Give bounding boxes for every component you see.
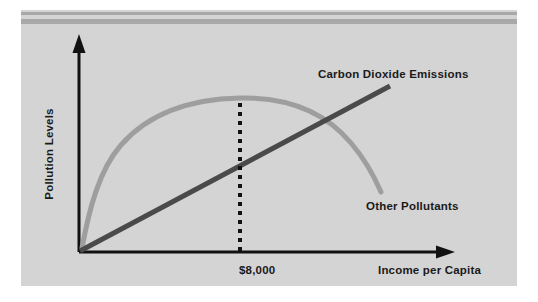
series-co2-line [80, 86, 390, 251]
y-axis-label: Pollution Levels [43, 104, 55, 204]
plot-area: Pollution Levels Income per Capita $8,00… [21, 10, 517, 286]
figure-root: Pollution Levels Income per Capita $8,00… [0, 0, 538, 302]
x-axis-tick-label-8000: $8,000 [239, 264, 275, 276]
chart-panel: Pollution Levels Income per Capita $8,00… [21, 10, 517, 286]
series-label-co2: Carbon Dioxide Emissions [318, 68, 469, 80]
x-axis-label: Income per Capita [378, 264, 481, 276]
chart-graphics [21, 10, 517, 286]
x-axis-arrowhead [436, 246, 455, 259]
y-axis-arrowhead [73, 34, 86, 53]
series-label-other-pollutants: Other Pollutants [366, 200, 459, 212]
